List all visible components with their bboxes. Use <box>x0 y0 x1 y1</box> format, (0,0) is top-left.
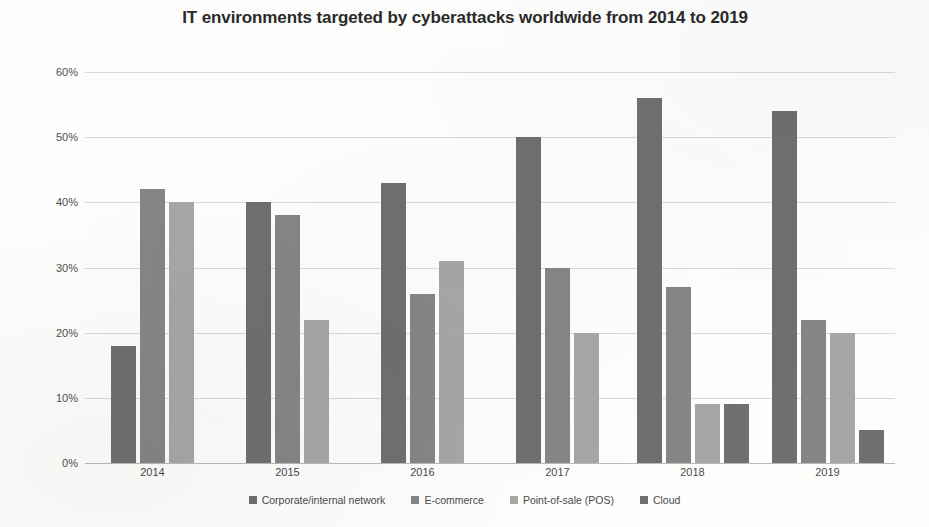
bar[interactable] <box>772 111 797 463</box>
bar[interactable] <box>724 404 749 463</box>
bar-group <box>246 72 329 463</box>
bar[interactable] <box>801 320 826 463</box>
y-axis-tick-label: 50% <box>32 131 78 143</box>
bar[interactable] <box>439 261 464 463</box>
y-axis-tick-label: 30% <box>32 262 78 274</box>
bar[interactable] <box>695 404 720 463</box>
bar[interactable] <box>275 215 300 463</box>
bar[interactable] <box>381 183 406 463</box>
bar[interactable] <box>111 346 136 463</box>
x-axis-tick-label: 2017 <box>498 466 618 478</box>
legend-item[interactable]: Cloud <box>640 494 680 506</box>
bar[interactable] <box>169 202 194 463</box>
bar[interactable] <box>516 137 541 463</box>
x-axis-tick-label: 2014 <box>93 466 213 478</box>
chart-title: IT environments targeted by cyberattacks… <box>95 6 835 31</box>
x-axis-tick-label: 2019 <box>768 466 888 478</box>
bar[interactable] <box>140 189 165 463</box>
bar-group <box>381 72 464 463</box>
legend-swatch-icon <box>510 496 518 504</box>
legend-item[interactable]: E-commerce <box>411 494 484 506</box>
legend-label: Cloud <box>653 494 680 506</box>
bar-group <box>637 72 749 463</box>
chart-page: IT environments targeted by cyberattacks… <box>0 0 929 527</box>
y-axis-tick-label: 60% <box>32 66 78 78</box>
bar[interactable] <box>545 268 570 464</box>
legend-swatch-icon <box>411 496 419 504</box>
legend-item[interactable]: Corporate/internal network <box>249 494 386 506</box>
bar[interactable] <box>830 333 855 463</box>
legend-label: E-commerce <box>424 494 484 506</box>
y-axis: 0%10%20%30%40%50%60% <box>28 72 78 463</box>
bar[interactable] <box>304 320 329 463</box>
y-axis-tick-label: 20% <box>32 327 78 339</box>
legend-item[interactable]: Point-of-sale (POS) <box>510 494 614 506</box>
bar-group <box>111 72 194 463</box>
legend-label: Corporate/internal network <box>262 494 386 506</box>
axis-baseline <box>85 463 895 464</box>
bar[interactable] <box>859 430 884 463</box>
bars-layer <box>85 72 895 463</box>
x-axis: 201420152016201720182019 <box>85 466 895 486</box>
x-axis-tick-label: 2018 <box>633 466 753 478</box>
bar[interactable] <box>637 98 662 463</box>
bar[interactable] <box>246 202 271 463</box>
bar-group <box>516 72 599 463</box>
y-axis-tick-label: 10% <box>32 392 78 404</box>
legend-label: Point-of-sale (POS) <box>523 494 614 506</box>
x-axis-tick-label: 2016 <box>363 466 483 478</box>
x-axis-tick-label: 2015 <box>228 466 348 478</box>
bar[interactable] <box>410 294 435 463</box>
bar-group <box>772 72 884 463</box>
y-axis-tick-label: 0% <box>32 457 78 469</box>
bar[interactable] <box>574 333 599 463</box>
chart-legend: Corporate/internal networkE-commercePoin… <box>0 494 929 506</box>
legend-swatch-icon <box>640 496 648 504</box>
plot-area <box>85 72 895 463</box>
legend-swatch-icon <box>249 496 257 504</box>
y-axis-tick-label: 40% <box>32 196 78 208</box>
bar[interactable] <box>666 287 691 463</box>
